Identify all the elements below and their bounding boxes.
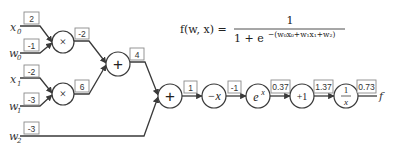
node-exp: e x 0.37 — [246, 80, 290, 108]
svg-text:1: 1 — [17, 80, 21, 88]
value: -2 — [28, 67, 36, 77]
node-reciprocal: 1 x 0.73 — [334, 80, 376, 108]
input-w0: w 0 -1 — [9, 39, 39, 62]
add-one-icon: +1 — [297, 91, 308, 102]
input-x1: x 1 -2 — [10, 65, 39, 88]
output-label: f — [378, 90, 385, 103]
value: -1 — [28, 41, 36, 51]
value: 2 — [29, 14, 34, 24]
node-multiply-1: × 6 — [52, 80, 89, 105]
formula-numerator: 1 — [287, 14, 294, 27]
value: 0.37 — [272, 82, 289, 92]
value: 1 — [188, 83, 193, 93]
computational-graph: f(w, x) = 1 1 + e −(w₀x₀+w₁x₁+w₂) x 0 2 … — [0, 0, 394, 148]
exp-icon: e — [253, 90, 259, 104]
input-w1: w 1 -3 — [9, 93, 39, 115]
formula: f(w, x) = 1 1 + e −(w₀x₀+w₁x₁+w₂) — [180, 14, 345, 45]
value: 4 — [135, 50, 140, 60]
input-w2: w 2 -3 — [9, 122, 39, 145]
svg-text:0: 0 — [17, 54, 22, 62]
exp-superscript: x — [260, 88, 265, 97]
node-negate: −x -1 — [202, 81, 241, 108]
svg-text:2: 2 — [16, 137, 22, 145]
plus-icon: + — [165, 87, 175, 106]
multiply-icon: × — [60, 87, 67, 101]
plus-icon: + — [113, 55, 123, 74]
value: -3 — [28, 95, 36, 105]
reciprocal-numerator: 1 — [344, 85, 349, 95]
value: 6 — [80, 82, 85, 92]
reciprocal-denominator: x — [343, 97, 348, 107]
value: 1.37 — [315, 82, 332, 92]
negate-icon: −x — [207, 89, 221, 103]
formula-exponent: −(w₀x₀+w₁x₁+w₂) — [268, 30, 336, 39]
svg-text:0: 0 — [17, 28, 22, 36]
value: 0.73 — [358, 82, 375, 92]
node-add-one: +1 1.37 — [290, 80, 333, 108]
formula-lhs: f(w, x) = — [180, 23, 227, 36]
value: -1 — [231, 83, 239, 93]
node-add-1: + 1 — [158, 81, 197, 108]
svg-text:x: x — [10, 73, 17, 86]
formula-denominator: 1 + e — [234, 32, 264, 45]
value: -3 — [28, 124, 36, 134]
svg-text:x: x — [10, 21, 17, 34]
svg-text:1: 1 — [17, 107, 21, 115]
input-x0: x 0 2 — [10, 12, 39, 36]
value: -2 — [78, 29, 86, 39]
multiply-icon: × — [60, 35, 67, 49]
